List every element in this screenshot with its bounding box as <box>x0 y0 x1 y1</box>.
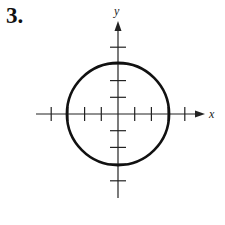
coordinate-diagram: x y <box>0 0 225 225</box>
y-axis-arrowhead-icon <box>115 21 122 31</box>
x-axis-label: x <box>208 107 215 121</box>
x-axis-arrowhead-icon <box>195 111 205 118</box>
y-axis-label: y <box>113 4 120 18</box>
axes <box>36 26 200 198</box>
